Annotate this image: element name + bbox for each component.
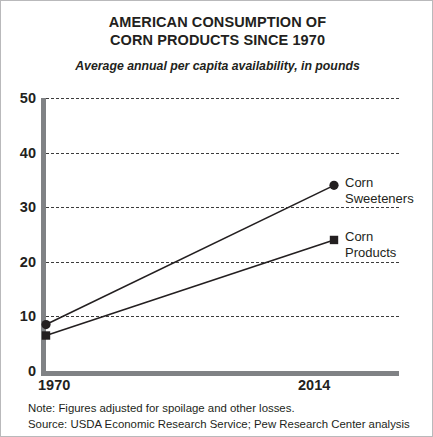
series-label: CornSweeteners — [345, 175, 414, 207]
chart-footnotes: Note: Figures adjusted for spoilage and … — [28, 401, 428, 432]
chart-source: Source: USDA Economic Research Service; … — [28, 417, 428, 433]
chart-note: Note: Figures adjusted for spoilage and … — [28, 401, 428, 417]
data-point-marker — [41, 320, 50, 329]
series-label-line: Sweeteners — [345, 191, 414, 207]
plot-area: 0102030405019702014CornSweetenersCornPro… — [1, 1, 433, 437]
data-point-marker — [329, 181, 338, 190]
chart-figure: AMERICAN CONSUMPTION OF CORN PRODUCTS SI… — [0, 0, 433, 437]
series-label-line: Corn — [345, 229, 396, 245]
data-point-marker — [330, 236, 338, 244]
series-lines-layer — [1, 1, 433, 437]
series-label: CornProducts — [345, 229, 396, 261]
data-point-marker — [42, 331, 50, 339]
series-label-line: Products — [345, 245, 396, 261]
series-label-line: Corn — [345, 175, 414, 191]
